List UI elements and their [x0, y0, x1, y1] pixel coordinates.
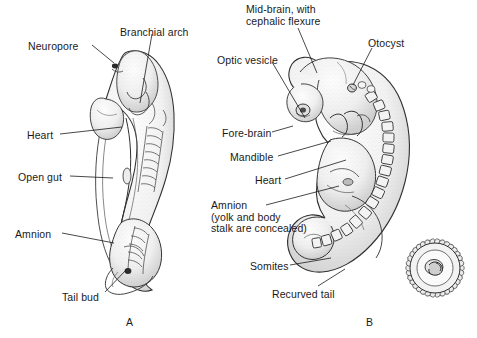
- panel-b-label-recurved-tail: Recurved tail: [272, 289, 335, 301]
- panel-b-label-mid-brain: Mid-brain, with cephalic flexure: [246, 4, 321, 27]
- panel-a-label-open-gut: Open gut: [18, 172, 62, 184]
- panel-b-label-fore-brain: Fore-brain: [222, 128, 271, 140]
- panel-a-label-neuropore: Neuropore: [28, 41, 79, 53]
- panel-b-label-optic-vesicle: Optic vesicle: [217, 55, 278, 67]
- panel-letter-b: B: [366, 316, 373, 328]
- chorionic-vesicle-inset: [406, 239, 465, 298]
- panel-b-label-heart: Heart: [255, 175, 281, 187]
- panel-letter-a: A: [126, 316, 133, 328]
- panel-b-label-otocyst: Otocyst: [368, 38, 404, 50]
- panel-a-label-amnion: Amnion: [15, 229, 51, 241]
- panel-b-label-mandible: Mandible: [230, 152, 273, 164]
- panel-a-label-heart: Heart: [27, 130, 53, 142]
- panel-a-label-tail-bud: Tail bud: [62, 292, 99, 304]
- panel-a-label-branchial-arch: Branchial arch: [120, 27, 189, 39]
- panel-b-label-amnion-yolk: Amnion (yolk and body stalk are conceale…: [211, 200, 307, 235]
- panel-b-label-somites: Somites: [250, 261, 289, 273]
